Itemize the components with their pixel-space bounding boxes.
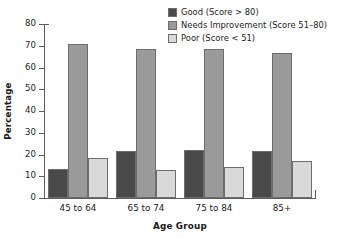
- bar: [204, 49, 224, 198]
- y-axis-tick-label: 40: [25, 105, 36, 116]
- y-axis-tick-label: 20: [25, 149, 36, 160]
- plot-area: 0102030405060708045 to 6465 to 7475 to 8…: [44, 24, 316, 198]
- y-axis-line: [44, 24, 45, 198]
- x-axis-tick-label: 75 to 84: [180, 202, 248, 214]
- y-axis-tick: 10: [39, 176, 44, 177]
- y-axis-tick-label: 80: [25, 18, 36, 29]
- y-axis-tick-label: 10: [25, 170, 36, 181]
- y-axis-tick-label: 60: [25, 62, 36, 73]
- y-axis-top-cap: [44, 24, 49, 25]
- y-axis-tick: 20: [39, 155, 44, 156]
- y-axis-tick-label: 0: [31, 192, 36, 203]
- bar: [116, 151, 136, 198]
- bar: [252, 151, 272, 198]
- bar: [156, 170, 176, 198]
- y-axis-tick: 50: [39, 89, 44, 90]
- bar: [48, 169, 68, 198]
- x-axis-tick-label: 85+: [248, 202, 316, 214]
- bar: [88, 158, 108, 198]
- x-axis-tick-label: 45 to 64: [44, 202, 112, 214]
- legend-item[interactable]: Good (Score > 80): [168, 7, 327, 18]
- bar: [68, 44, 88, 198]
- bar: [224, 167, 244, 198]
- y-axis-tick-label: 70: [25, 40, 36, 51]
- bar: [184, 150, 204, 198]
- x-axis-right-tick: [315, 190, 316, 199]
- y-axis-tick: 60: [39, 68, 44, 69]
- y-axis-tick: 0: [39, 198, 44, 199]
- y-axis-tick: 80: [39, 24, 44, 25]
- bar: [136, 49, 156, 198]
- x-axis-tick-label: 65 to 74: [112, 202, 180, 214]
- y-axis-tick-label: 30: [25, 127, 36, 138]
- x-axis-line: [44, 198, 316, 199]
- y-axis-tick: 40: [39, 111, 44, 112]
- y-axis-tick: 30: [39, 133, 44, 134]
- y-axis-tick: 70: [39, 46, 44, 47]
- y-axis-tick-label: 50: [25, 83, 36, 94]
- x-axis-title: Age Group: [44, 221, 316, 231]
- bar: [292, 161, 312, 198]
- legend-swatch-icon: [168, 8, 177, 17]
- bar-chart-figure: Good (Score > 80)Needs Improvement (Scor…: [0, 0, 353, 238]
- legend-item-label: Good (Score > 80): [181, 7, 259, 18]
- bar: [272, 53, 292, 199]
- y-axis-title: Percentage: [3, 24, 17, 198]
